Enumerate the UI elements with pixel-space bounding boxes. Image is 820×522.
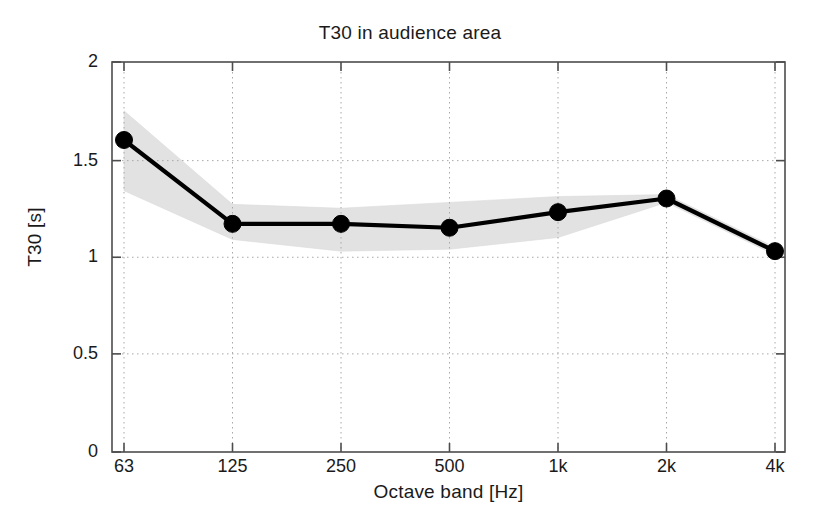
data-point-4k [767, 243, 784, 260]
data-point-1k [550, 204, 567, 221]
x-tick-label-4k: 4k [740, 456, 810, 477]
x-tick-label-125: 125 [198, 456, 268, 477]
x-axis-label: Octave band [Hz] [112, 481, 785, 503]
x-tick-label-1k: 1k [523, 456, 593, 477]
y-axis-label: T30 [s] [24, 157, 46, 317]
x-tick-label-250: 250 [306, 456, 376, 477]
plot-canvas [0, 0, 820, 522]
x-tick-label-2k: 2k [632, 456, 702, 477]
data-point-500 [441, 219, 458, 236]
data-point-63 [116, 132, 133, 149]
data-point-2k [658, 190, 675, 207]
data-point-125 [224, 215, 241, 232]
y-tick-label-1: 0.5 [38, 343, 98, 364]
y-tick-label-2: 1 [38, 246, 98, 267]
y-tick-label-4: 2 [38, 51, 98, 72]
grid-lines [112, 62, 785, 452]
y-tick-label-3: 1.5 [38, 150, 98, 171]
x-tick-label-500: 500 [415, 456, 485, 477]
chart-figure: T30 in audience area [0, 0, 820, 522]
x-tick-label-63: 63 [89, 456, 159, 477]
data-point-250 [333, 215, 350, 232]
